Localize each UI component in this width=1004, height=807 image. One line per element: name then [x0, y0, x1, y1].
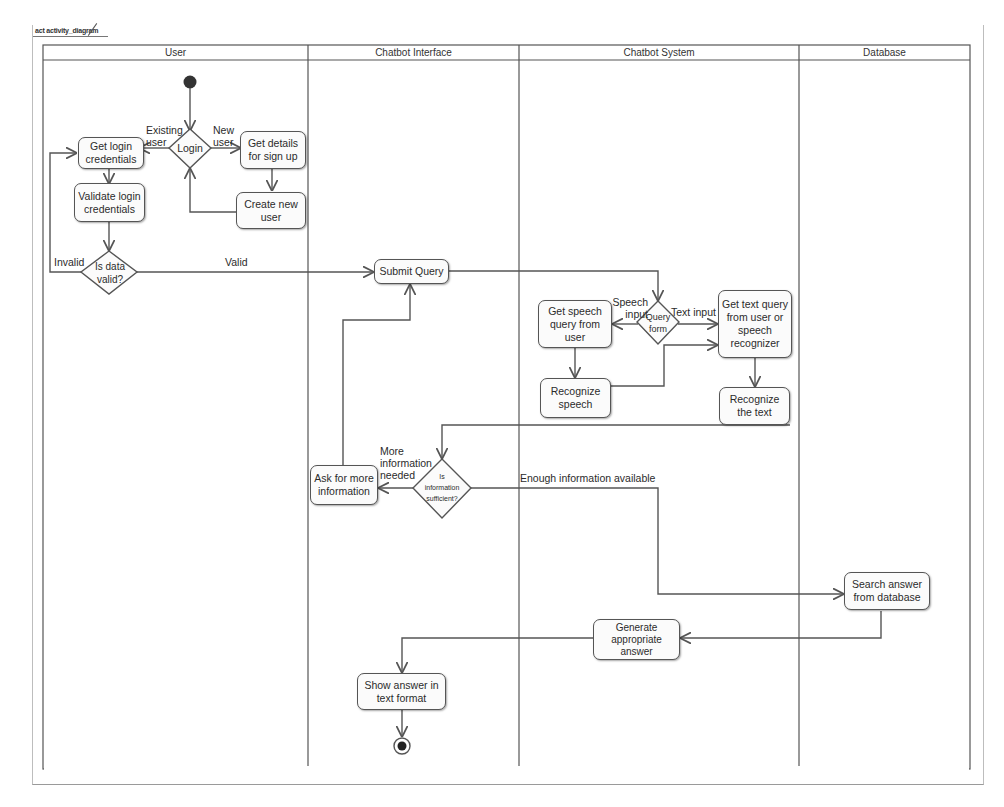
action-get-text-query: Get text query from user or speech recog…: [718, 290, 792, 358]
edge-label-more-info-needed: More information needed: [380, 445, 440, 481]
decision-info-line3: sufficient?: [426, 495, 457, 502]
action-get-login-credentials: Get login credentials: [78, 137, 144, 169]
decision-valid-line1: Is data: [95, 261, 125, 272]
lane-header-database: Database: [799, 46, 970, 60]
edge-label-valid: Valid: [225, 256, 248, 268]
action-recognize-speech: Recognize speech: [540, 378, 611, 418]
lane-header-user: User: [43, 46, 308, 60]
diagram-lines: [0, 0, 1004, 807]
decision-is-data-valid: [81, 251, 137, 294]
edge-label-text-input: Text input: [671, 306, 716, 318]
decision-info-line2: information: [425, 484, 460, 491]
decision-query-form-line2: form: [649, 324, 667, 334]
edge-label-existing-user: Existing user: [146, 124, 190, 148]
action-search-answer-db: Search answer from database: [844, 572, 930, 610]
activity-diagram: act activity_diagram: [0, 0, 1004, 807]
edge-label-enough-info: Enough information available: [520, 472, 655, 484]
decision-valid-line2: valid?: [97, 274, 123, 285]
action-show-answer: Show answer in text format: [357, 673, 446, 710]
lane-header-chatbot-interface: Chatbot Interface: [308, 46, 519, 60]
decision-query-form-line1: Query: [646, 312, 671, 322]
decision-info-line1: Is: [439, 473, 444, 480]
action-generate-answer: Generate appropriate answer: [593, 619, 680, 660]
lane-header-chatbot-system: Chatbot System: [519, 46, 799, 60]
action-create-new-user: Create new user: [236, 192, 306, 229]
edge-label-speech-input: Speech input: [608, 296, 648, 320]
action-validate-login-credentials: Validate login credentials: [74, 183, 145, 222]
initial-node: [184, 76, 197, 89]
action-ask-more-info: Ask for more information: [310, 465, 378, 505]
action-submit-query: Submit Query: [374, 259, 449, 284]
edge-label-invalid: Invalid: [54, 256, 84, 268]
action-get-speech-query: Get speech query from user: [538, 300, 612, 348]
action-recognize-text: Recognize the text: [719, 387, 790, 425]
edge-label-new-user: New user: [213, 124, 245, 148]
action-get-details-signup: Get details for sign up: [240, 131, 306, 169]
